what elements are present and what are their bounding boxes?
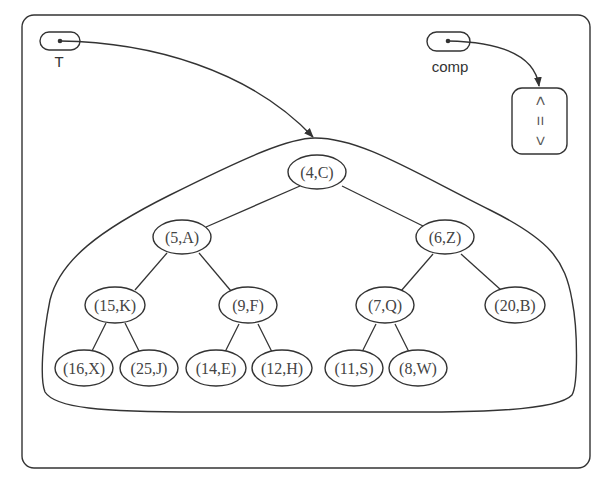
svg-text:(20,B): (20,B) [494,297,535,315]
tree-node: (16,X) [55,350,113,386]
comparator: < = > [512,88,567,154]
tree-node: (8,W) [389,350,447,386]
tree-node: (25,J) [120,350,178,386]
tree-node: (4,C) [288,155,346,189]
svg-text:(7,Q): (7,Q) [368,297,402,315]
svg-text:(15,K): (15,K) [94,297,136,315]
svg-text:(6,Z): (6,Z) [429,229,461,247]
svg-text:(12,H): (12,H) [261,360,303,378]
tree-nodes: (4,C) (5,A) (6,Z) (15,K) (9,F) (7,Q) (20… [55,155,545,386]
tree-node: (5,A) [153,220,211,254]
pointer-arrow-T [60,41,313,137]
tree-node: (14,E) [186,350,246,386]
svg-text:(11,S): (11,S) [335,360,374,378]
heap-diagram: T comp < = > (4,C) (5,A) (6,Z) [0,0,609,492]
tree-node: (15,K) [85,287,145,323]
svg-text:(16,X): (16,X) [63,360,105,378]
svg-text:(14,E): (14,E) [196,360,236,378]
variable-label-T: T [54,53,63,70]
tree-node: (7,Q) [356,287,414,323]
tree-node: (6,Z) [416,220,474,254]
svg-text:(9,F): (9,F) [232,297,264,315]
tree-edge [225,324,239,352]
variable-T: T [40,32,80,70]
tree-edge [199,253,231,291]
variable-comp: comp [427,32,470,75]
svg-text:(4,C): (4,C) [300,164,333,182]
tree-edge [362,324,376,352]
greater-than-symbol: > [531,136,550,146]
outer-frame [22,15,590,468]
tree-node: (20,B) [485,287,545,323]
tree-edges [92,186,501,352]
tree-edge [342,186,425,227]
tree-node: (12,H) [252,350,312,386]
tree-edge [401,254,433,291]
tree-node: (9,F) [219,287,277,323]
tree-edge [258,324,272,352]
equal-symbol: = [531,116,550,126]
tree-edge [395,324,409,352]
svg-text:(8,W): (8,W) [399,360,437,378]
tree-edge [461,254,501,290]
tree-edge [206,186,300,227]
tree-edge [92,323,106,351]
tree-node: (11,S) [325,350,383,386]
variable-label-comp: comp [432,58,469,75]
svg-text:(25,J): (25,J) [131,360,168,378]
tree-edge [135,253,167,290]
svg-text:(5,A): (5,A) [165,229,199,247]
tree-edge [125,323,139,351]
less-than-symbol: < [531,96,550,106]
